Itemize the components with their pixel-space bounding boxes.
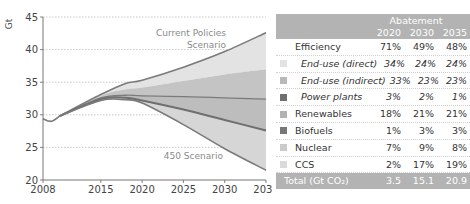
row-value: 21% <box>437 106 470 122</box>
row-label: End-use (direct) <box>295 56 377 72</box>
total-value: 20.9 <box>437 173 470 189</box>
table-row: Nuclear7%9%8% <box>276 140 470 157</box>
annotation-current-policies: Current Policies <box>156 28 226 38</box>
row-label-cell: Renewables <box>276 106 371 122</box>
legend-swatch-icon <box>280 111 287 118</box>
row-label: CCS <box>295 157 314 173</box>
row-value: 17% <box>404 157 437 173</box>
row-label-cell: Nuclear <box>276 140 371 156</box>
row-label-cell: End-use (indirect) <box>276 73 386 89</box>
total-value: 15.1 <box>404 173 437 189</box>
abatement-area-chart: 202530354045200820152020202520302035 Gt … <box>0 0 272 204</box>
y-tick-label: 25 <box>25 142 38 153</box>
row-value: 23% <box>414 73 442 89</box>
row-value: 3% <box>371 89 404 105</box>
row-value: 3% <box>437 123 470 139</box>
row-value: 18% <box>371 106 404 122</box>
row-label-cell: Efficiency <box>276 39 371 55</box>
table-header: Abatement 2020 2030 2035 <box>276 14 470 39</box>
x-tick-label: 2008 <box>30 184 55 195</box>
row-value: 24% <box>439 56 470 72</box>
table-row: CCS2%17%19% <box>276 157 470 174</box>
row-label: Biofuels <box>295 123 333 139</box>
row-value: 2% <box>404 89 437 105</box>
x-tick-label: 2035 <box>253 184 272 195</box>
table-row: Power plants3%2%1% <box>276 89 470 106</box>
table-row: Efficiency71%49%48% <box>276 39 470 56</box>
row-value: 3% <box>404 123 437 139</box>
row-value: 24% <box>408 56 439 72</box>
legend-swatch-icon <box>280 94 287 101</box>
row-label-cell: End-use (direct) <box>276 56 377 72</box>
legend-swatch-icon <box>280 60 287 67</box>
header-years: 2020 2030 2035 <box>276 27 470 39</box>
row-label: Efficiency <box>295 39 341 55</box>
row-value: 71% <box>371 39 404 55</box>
legend-swatch-icon <box>280 161 287 168</box>
y-axis-label: Gt <box>4 18 14 29</box>
year-header: 2030 <box>404 27 437 39</box>
row-value: 7% <box>371 140 404 156</box>
row-label-cell: CCS <box>276 157 371 173</box>
table-body: Efficiency71%49%48%End-use (direct)34%24… <box>276 39 470 173</box>
row-value: 19% <box>437 157 470 173</box>
row-value: 1% <box>437 89 470 105</box>
row-label: End-use (indirect) <box>295 73 386 89</box>
y-tick-label: 30 <box>25 109 38 120</box>
year-header: 2020 <box>371 27 404 39</box>
row-label: Power plants <box>295 89 362 105</box>
header-title: Abatement <box>276 14 470 27</box>
year-header: 2035 <box>437 27 470 39</box>
abatement-table: Abatement 2020 2030 2035 Efficiency71%49… <box>276 14 470 189</box>
legend-swatch-icon <box>280 144 287 151</box>
row-label: Nuclear <box>295 140 332 156</box>
row-value: 33% <box>386 73 414 89</box>
row-value: 21% <box>404 106 437 122</box>
row-label: Renewables <box>295 106 352 122</box>
header-spacer <box>276 27 371 39</box>
total-value: 3.5 <box>371 173 404 189</box>
legend-swatch-icon <box>280 77 287 84</box>
table-row: End-use (indirect)33%23%23% <box>276 73 470 90</box>
table-row: End-use (direct)34%24%24% <box>276 56 470 73</box>
row-value: 48% <box>437 39 470 55</box>
y-tick-label: 45 <box>25 12 38 23</box>
row-value: 9% <box>404 140 437 156</box>
legend-swatch-icon <box>280 127 287 134</box>
row-value: 8% <box>437 140 470 156</box>
row-label-cell: Biofuels <box>276 123 371 139</box>
total-label: Total (Gt CO₂) <box>276 173 371 189</box>
history-line <box>43 116 60 121</box>
x-tick-label: 2020 <box>129 184 154 195</box>
table-total-row: Total (Gt CO₂) 3.5 15.1 20.9 <box>276 173 470 189</box>
annotation-450-scenario: 450 Scenario <box>164 151 224 161</box>
x-tick-label: 2030 <box>212 184 237 195</box>
table-row: Renewables18%21%21% <box>276 106 470 123</box>
table-row: Biofuels1%3%3% <box>276 123 470 140</box>
row-value: 23% <box>442 73 470 89</box>
y-tick-label: 35 <box>25 77 38 88</box>
x-tick-label: 2025 <box>171 184 196 195</box>
row-value: 49% <box>404 39 437 55</box>
row-value: 2% <box>371 157 404 173</box>
y-tick-label: 40 <box>25 44 38 55</box>
annotation-current-policies-line2: Scenario <box>187 40 227 50</box>
row-value: 1% <box>371 123 404 139</box>
row-value: 34% <box>377 56 408 72</box>
x-tick-label: 2015 <box>88 184 113 195</box>
row-label-cell: Power plants <box>276 89 371 105</box>
